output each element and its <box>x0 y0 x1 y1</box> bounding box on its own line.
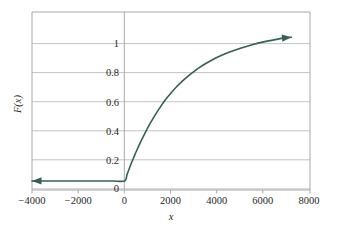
y-tick-label-1: 1 <box>114 38 119 49</box>
x-tick-label-2000: 2000 <box>160 195 181 206</box>
x-tick-label--2000: −2000 <box>65 195 92 206</box>
exponential-cdf-chart: 1 0.8 0.6 0.4 0.2 0 −4000 −2000 0 2000 4… <box>0 0 342 232</box>
y-tick-label-0-6: 0.6 <box>106 97 119 108</box>
y-tick-label-0-8: 0.8 <box>106 67 119 78</box>
x-tick-label--4000: −4000 <box>19 195 46 206</box>
x-tick-label-4000: 4000 <box>206 195 227 206</box>
y-tick-label-0: 0 <box>114 183 119 194</box>
x-tick-label-8000: 8000 <box>299 195 320 206</box>
x-axis-ticks <box>32 190 310 194</box>
y-tick-label-0-2: 0.2 <box>106 155 119 166</box>
x-tick-label-0: 0 <box>122 195 127 206</box>
chart-figure: 1 0.8 0.6 0.4 0.2 0 −4000 −2000 0 2000 4… <box>0 0 342 232</box>
x-tick-labels: −4000 −2000 0 2000 4000 6000 8000 <box>19 195 320 206</box>
plot-background <box>32 12 310 190</box>
y-axis-title: F(x) <box>12 94 24 114</box>
x-tick-label-6000: 6000 <box>252 195 273 206</box>
x-axis-title: x <box>168 211 174 222</box>
y-tick-label-0-4: 0.4 <box>106 126 120 137</box>
